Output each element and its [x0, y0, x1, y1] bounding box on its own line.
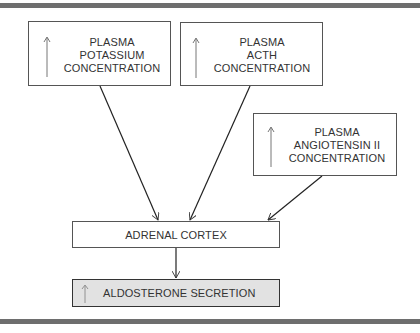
label-line: PLASMA: [207, 36, 317, 49]
arrow-potassium-to-cortex: [100, 86, 158, 220]
label-line: POTASSIUM: [57, 49, 167, 62]
aldosterone-secretion-box: ALDOSTERONE SECRETION: [72, 279, 280, 307]
arrow-acth-to-cortex: [190, 86, 250, 220]
plasma-angiotensin-box: PLASMA ANGIOTENSIN II CONCENTRATION: [253, 113, 397, 176]
plasma-acth-box: PLASMA ACTH CONCENTRATION: [180, 22, 323, 86]
adrenal-cortex-box: ADRENAL CORTEX: [72, 221, 280, 248]
increase-arrow-icon: [81, 284, 89, 304]
label-line: CONCENTRATION: [207, 62, 317, 75]
label-line: ACTH: [207, 49, 317, 62]
label-line: CONCENTRATION: [57, 62, 167, 75]
adrenal-cortex-label: ADRENAL CORTEX: [73, 229, 279, 242]
plasma-potassium-box: PLASMA POTASSIUM CONCENTRATION: [28, 21, 171, 86]
increase-arrow-icon: [192, 37, 200, 79]
increase-arrow-icon: [43, 36, 51, 78]
label-line: ANGIOTENSIN II: [282, 139, 392, 152]
label-line: PLASMA: [282, 126, 392, 139]
label-line: PLASMA: [57, 36, 167, 49]
aldosterone-secretion-label: ALDOSTERONE SECRETION: [103, 287, 253, 300]
label-line: CONCENTRATION: [282, 152, 392, 165]
increase-arrow-icon: [267, 126, 275, 168]
arrow-angiotensin-to-cortex: [268, 176, 322, 220]
